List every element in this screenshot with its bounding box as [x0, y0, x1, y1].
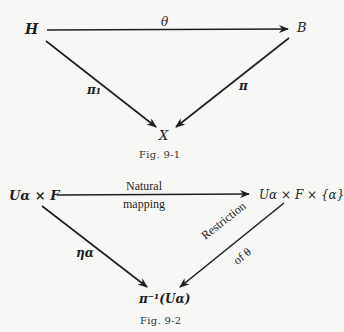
node-h: H — [25, 22, 38, 36]
label-theta: θ — [161, 16, 168, 28]
label-pi1: π₁ — [87, 84, 101, 96]
caption-fig-9-2: Fig. 9-2 — [140, 316, 181, 326]
arrow-natural-mapping — [58, 194, 249, 195]
node-b: B — [297, 21, 307, 34]
caption-fig-9-1: Fig. 9-1 — [139, 150, 180, 160]
node-pi-inverse-ua: π⁻¹(Uα) — [139, 293, 190, 305]
label-natural: Natural — [126, 180, 162, 192]
node-ua-x-f: Uα × F — [9, 189, 60, 202]
arrow-theta — [47, 29, 288, 30]
arrow-pi — [176, 38, 289, 127]
node-x: X — [159, 129, 168, 142]
label-eta: ηα — [76, 247, 94, 259]
arrow-eta — [42, 206, 147, 287]
label-pi: π — [239, 80, 248, 92]
label-mapping: mapping — [123, 198, 165, 210]
node-ua-x-f-x-alpha: Uα × F × {α} — [259, 189, 344, 201]
